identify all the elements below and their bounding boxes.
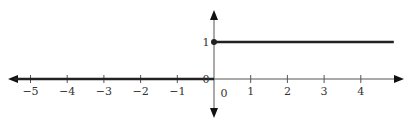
tick-labels: −5−4−3−2−10123401 <box>22 36 364 100</box>
x-tick-label: −1 <box>169 85 185 98</box>
axes <box>8 10 404 118</box>
step-function-chart: −5−4−3−2−10123401 <box>0 0 412 123</box>
y-axis-up-arrow-icon <box>210 10 218 20</box>
x-tick-label: 1 <box>247 85 254 98</box>
x-tick-label: 2 <box>284 85 291 98</box>
x-tick-label: −5 <box>22 85 38 98</box>
filled-point-icon <box>211 39 217 45</box>
x-axis-right-arrow-icon <box>394 75 404 83</box>
y-axis-down-arrow-icon <box>210 108 218 118</box>
x-tick-label: 0 <box>221 87 228 100</box>
y-tick-label: 1 <box>203 36 210 49</box>
data-points <box>211 39 217 45</box>
x-tick-label: 3 <box>321 85 328 98</box>
x-tick-label: −3 <box>96 85 112 98</box>
x-tick-label: −2 <box>132 85 148 98</box>
x-tick-label: −4 <box>59 85 75 98</box>
x-tick-label: 4 <box>357 85 364 98</box>
y-tick-label: 0 <box>203 73 210 86</box>
